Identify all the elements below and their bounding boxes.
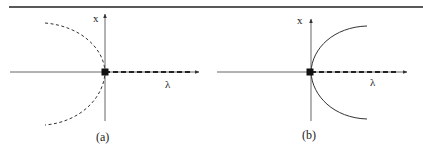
bifurcation-point-marker [307, 69, 314, 76]
dashed-curve [45, 23, 105, 125]
panel-caption: (b) [302, 128, 316, 142]
bifurcation-point-marker [102, 69, 109, 76]
panel-a: x λ (a) [10, 12, 199, 144]
panel-b: x λ (b) [217, 14, 407, 142]
panel-caption: (a) [96, 130, 109, 144]
x-axis-label: λ [165, 78, 171, 90]
bifurcation-figure: x λ (a) x λ (b) [0, 0, 423, 151]
x-axis-label: λ [370, 76, 376, 88]
y-axis-label: x [93, 12, 99, 24]
y-axis-label: x [297, 14, 303, 26]
